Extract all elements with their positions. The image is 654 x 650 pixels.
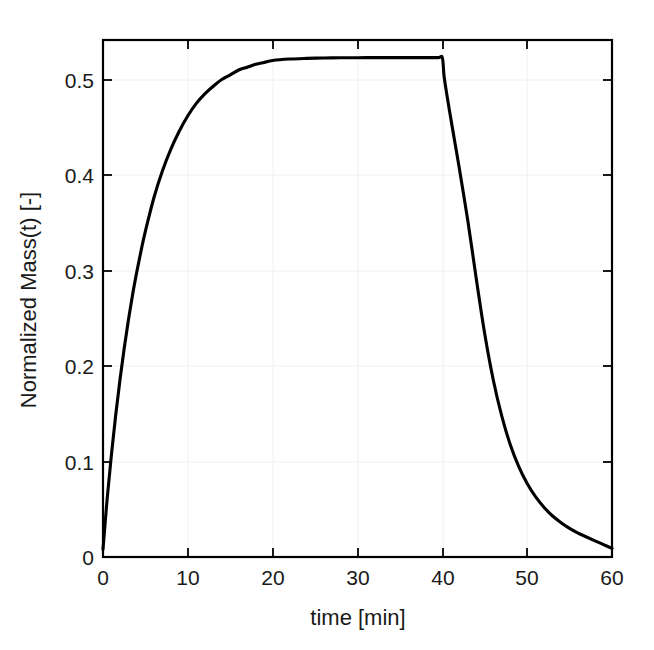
y-axis-tick-labels: 0 0.1 0.2 0.3 0.4 0.5 — [65, 69, 95, 569]
y-tick-label: 0.4 — [65, 164, 95, 187]
x-axis-tick-labels: 0 10 20 30 40 50 60 — [97, 566, 624, 589]
x-tick-label: 10 — [176, 566, 199, 589]
figure-container: 0 0.1 0.2 0.3 0.4 0.5 0 10 20 30 40 50 6… — [0, 0, 654, 650]
y-tick-label: 0.5 — [65, 69, 94, 92]
x-tick-label: 30 — [346, 566, 369, 589]
y-tick-label: 0.2 — [65, 355, 94, 378]
y-tick-label: 0.3 — [65, 260, 94, 283]
plot-canvas: 0 0.1 0.2 0.3 0.4 0.5 0 10 20 30 40 50 6… — [0, 0, 654, 650]
x-tick-label: 50 — [515, 566, 538, 589]
x-tick-label: 60 — [600, 566, 623, 589]
x-axis-title: time [min] — [310, 605, 405, 630]
x-tick-label: 40 — [431, 566, 454, 589]
y-tick-label: 0 — [82, 546, 94, 569]
x-tick-label: 0 — [97, 566, 109, 589]
y-axis-title: Normalized Mass(t) [-] — [16, 192, 41, 408]
y-tick-label: 0.1 — [65, 451, 94, 474]
x-tick-label: 20 — [261, 566, 284, 589]
